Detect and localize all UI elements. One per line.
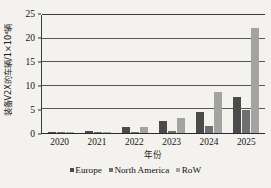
y-axis-tick-label: 15 [25, 57, 35, 67]
bar [48, 132, 56, 133]
bar [85, 131, 93, 133]
y-axis-tick-label: 20 [25, 33, 35, 43]
bar [122, 127, 130, 133]
y-axis-title: 装备V2X的车辆/1×10⁴辆 [0, 0, 14, 140]
x-axis-title: 年份 [41, 148, 265, 160]
bar [94, 132, 102, 133]
bar [177, 118, 185, 133]
y-axis-tick-labels: 0510152025 [14, 14, 38, 134]
bar [233, 97, 241, 133]
bar [168, 131, 176, 133]
bar [159, 121, 167, 133]
legend-swatch-icon [109, 168, 113, 172]
bar [57, 132, 65, 133]
legend-label: RoW [182, 165, 201, 175]
legend-label: North America [114, 165, 169, 175]
bar [196, 112, 204, 133]
legend-item[interactable]: RoW [176, 165, 201, 175]
plot-area [41, 15, 265, 134]
bar [66, 132, 74, 133]
bar-group [191, 15, 228, 133]
bar [214, 92, 222, 133]
legend-swatch-icon [176, 168, 180, 172]
bar-group [228, 15, 265, 133]
legend-item[interactable]: North America [109, 165, 169, 175]
legend-swatch-icon [70, 168, 74, 172]
bar-group [154, 15, 191, 133]
y-axis-tick-label: 25 [25, 9, 35, 19]
bar-group [42, 15, 79, 133]
y-axis-tick-label: 10 [25, 81, 35, 91]
legend-label: Europe [75, 165, 102, 175]
bar [205, 126, 213, 133]
bar [140, 127, 148, 133]
bar [131, 132, 139, 133]
bar-group [79, 15, 116, 133]
bar [242, 110, 250, 133]
bar [103, 132, 111, 133]
chart-legend: EuropeNorth AmericaRoW [0, 165, 271, 175]
y-axis-tick-label: 0 [30, 129, 35, 139]
bar-group [116, 15, 153, 133]
y-axis-tick-label: 5 [30, 105, 35, 115]
chart-figure: 装备V2X的车辆/1×10⁴辆 0510152025 2020202120222… [0, 0, 271, 188]
bar [251, 28, 259, 133]
y-axis-title-text: 装备V2X的车辆/1×10⁴辆 [1, 24, 13, 117]
legend-item[interactable]: Europe [70, 165, 102, 175]
bar-groups [42, 15, 265, 133]
